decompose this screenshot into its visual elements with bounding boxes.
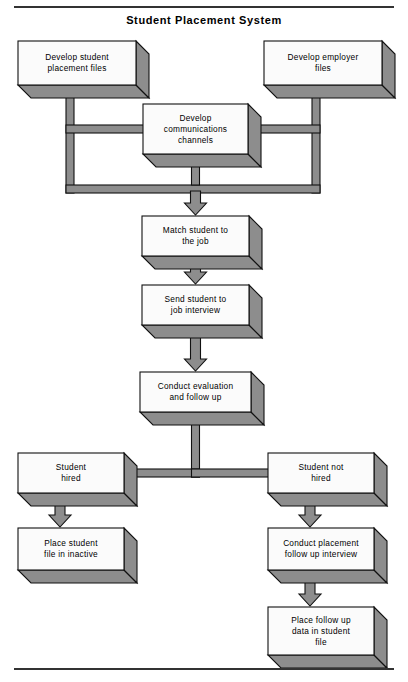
flow-node-label: communications bbox=[164, 124, 227, 134]
flow-node-label: follow up interview bbox=[285, 549, 358, 559]
bottom-divider-rule bbox=[14, 668, 394, 670]
flow-node-label: Send student to bbox=[165, 294, 227, 304]
flow-node-send-student-to-job-interview[interactable]: Send student tojob interview bbox=[142, 285, 262, 338]
flow-node-label: Match student to bbox=[163, 225, 228, 235]
box-bottom-face bbox=[18, 493, 137, 506]
flow-node-label: file bbox=[315, 637, 327, 647]
flow-node-label: placement files bbox=[47, 63, 106, 73]
connector-right-to-comms bbox=[259, 125, 320, 133]
flow-node-label: Develop employer bbox=[288, 52, 359, 62]
flow-node-student-not-hired[interactable]: Student nothired bbox=[268, 453, 387, 506]
box-bottom-face bbox=[143, 154, 261, 167]
box-bottom-face bbox=[140, 412, 264, 425]
box-bottom-face bbox=[18, 85, 149, 98]
flow-node-label: hired bbox=[61, 473, 81, 483]
box-bottom-face bbox=[268, 493, 387, 506]
box-bottom-face bbox=[268, 655, 387, 668]
flow-node-conduct-evaluation-and-follow-up[interactable]: Conduct evaluationand follow up bbox=[140, 372, 264, 425]
flow-node-label: data in student bbox=[292, 626, 351, 636]
arrow-to-conduct-placement-interview bbox=[299, 503, 321, 527]
flow-node-label: Student not bbox=[298, 462, 344, 472]
flowchart-diagram: Student Placement System Develop student… bbox=[0, 0, 408, 682]
connector-left-to-comms bbox=[66, 125, 145, 133]
arrow-to-conduct-evaluation bbox=[185, 335, 207, 371]
arrow-to-place-student-file bbox=[49, 503, 71, 527]
flow-node-develop-employer-files[interactable]: Develop employerfiles bbox=[264, 41, 395, 98]
connector-left-stem bbox=[66, 94, 74, 193]
flow-node-place-student-file-in-inactive[interactable]: Place studentfile in inactive bbox=[18, 528, 137, 583]
flow-node-label: Place student bbox=[44, 538, 98, 548]
flow-node-label: Develop bbox=[179, 113, 211, 123]
connector-split-right bbox=[192, 469, 271, 477]
box-bottom-face bbox=[264, 85, 395, 98]
flow-node-label: Conduct evaluation bbox=[158, 381, 234, 391]
flow-node-conduct-placement-follow-up-interview[interactable]: Conduct placementfollow up interview bbox=[268, 528, 387, 583]
flow-node-label: channels bbox=[178, 135, 213, 145]
flow-node-label: file in inactive bbox=[44, 549, 98, 559]
arrow-to-match-student bbox=[185, 191, 207, 215]
box-bottom-face bbox=[18, 570, 137, 583]
flow-node-label: Develop student bbox=[45, 52, 109, 62]
flow-node-develop-communications-channels[interactable]: Developcommunicationschannels bbox=[143, 104, 261, 167]
connector-right-stem bbox=[312, 94, 320, 193]
flow-node-match-student-to-the-job[interactable]: Match student tothe job bbox=[142, 216, 262, 269]
box-bottom-face bbox=[142, 325, 262, 338]
flow-node-label: and follow up bbox=[169, 392, 221, 402]
arrow-to-place-follow-up-data bbox=[299, 580, 321, 606]
flow-node-label: Student bbox=[56, 462, 87, 472]
flow-node-label: Place follow up bbox=[291, 615, 351, 625]
flowchart-canvas: Develop studentplacement filesDevelop em… bbox=[0, 0, 408, 682]
flow-node-place-follow-up-data-in-student-file[interactable]: Place follow updata in studentfile bbox=[268, 607, 387, 668]
flow-node-student-hired[interactable]: Studenthired bbox=[18, 453, 137, 506]
box-bottom-face bbox=[142, 256, 262, 269]
flow-node-label: files bbox=[315, 63, 331, 73]
node-layer: Develop studentplacement filesDevelop em… bbox=[18, 41, 395, 668]
flow-node-label: the job bbox=[182, 236, 209, 246]
flow-node-label: Conduct placement bbox=[283, 538, 359, 548]
flow-node-label: job interview bbox=[170, 305, 221, 315]
flow-node-label: hired bbox=[311, 473, 331, 483]
box-bottom-face bbox=[268, 570, 387, 583]
flow-node-develop-student-placement-files[interactable]: Develop studentplacement files bbox=[18, 41, 149, 98]
